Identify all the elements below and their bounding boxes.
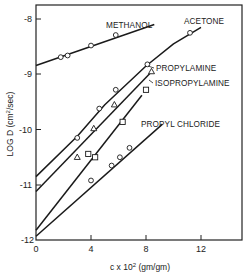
circle-marker-icon (97, 106, 102, 111)
circle-marker-icon (127, 145, 132, 150)
circle-marker-icon (75, 135, 80, 140)
leader-propylamine (148, 66, 154, 68)
circle-marker-icon (89, 43, 94, 48)
label-isopropylamine: ISOPROPYLAMINE (155, 79, 230, 88)
triangle-marker-icon (149, 68, 155, 73)
series-propyl-chloride (36, 124, 163, 236)
x-tick-label: 12 (196, 244, 206, 254)
fit-line-methanol (36, 25, 154, 66)
y-tick-label: -12 (21, 235, 34, 245)
circle-marker-icon (113, 87, 118, 92)
triangle-marker-icon (74, 154, 80, 159)
series-acetone (36, 27, 201, 176)
fit-line-acetone (36, 27, 201, 176)
circle-marker-icon (65, 53, 70, 58)
label-acetone: ACETONE (184, 17, 225, 26)
y-tick-label: -8 (24, 14, 32, 24)
fit-line-propylamine (36, 73, 150, 191)
y-tick-label: -9 (24, 69, 32, 79)
fit-line-propyl-chloride (36, 124, 163, 236)
x-axis-title: c x 102 (gm/gm) (110, 262, 170, 273)
circle-marker-icon (188, 30, 193, 35)
square-marker-icon (93, 155, 98, 160)
triangle-marker-icon (111, 102, 117, 107)
y-axis-title: LOG D (cm2/sec) (5, 91, 16, 156)
series-propylamine (36, 68, 155, 191)
circle-marker-icon (113, 33, 118, 38)
circle-marker-icon (117, 155, 122, 160)
circle-marker-icon (109, 163, 114, 168)
y-tick-label: -10 (19, 125, 32, 135)
series-isopropylamine (36, 87, 149, 230)
label-propyl-chloride: PROPYL CHLORIDE (141, 120, 220, 129)
label-methanol: METHANOL (106, 21, 153, 30)
square-marker-icon (120, 119, 125, 124)
x-tick-label: 4 (88, 244, 93, 254)
y-tick-label: -11 (20, 180, 32, 190)
circle-marker-icon (58, 55, 63, 60)
triangle-marker-icon (91, 125, 97, 130)
square-marker-icon (143, 87, 148, 92)
series-methanol (36, 25, 154, 66)
square-marker-icon (86, 151, 91, 156)
chart-svg: -8 -9 -10 -11 -12 LOG D (cm2/sec) 0 4 8 … (0, 0, 249, 275)
x-tick-label: 8 (143, 244, 148, 254)
circle-marker-icon (89, 178, 94, 183)
leader-isopropylamine (149, 80, 153, 83)
series-layer (36, 25, 201, 237)
x-tick-label: 0 (33, 244, 38, 254)
fit-line-isopropylamine (36, 95, 142, 230)
label-propylamine: PROPYLAMINE (156, 64, 217, 73)
